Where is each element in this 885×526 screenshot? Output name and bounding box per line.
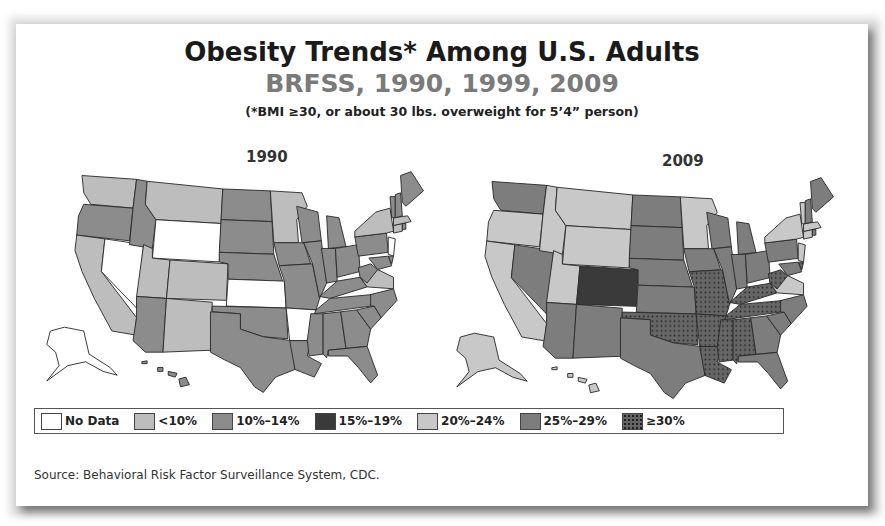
- state-wa: [492, 182, 547, 215]
- state-ne: [629, 258, 692, 287]
- state-hi: [142, 361, 190, 387]
- state-co: [166, 260, 228, 300]
- state-hi: [552, 367, 600, 393]
- us-map-2009: [448, 170, 838, 400]
- state-oh: [335, 245, 360, 278]
- state-az: [133, 296, 166, 352]
- state-nj: [798, 243, 805, 262]
- legend-label: 20%–24%: [441, 414, 504, 428]
- state-nh: [395, 193, 402, 218]
- legend-item-20-24: 20%–24%: [417, 413, 504, 430]
- swatch-gte30: [622, 413, 643, 430]
- state-ny: [355, 208, 394, 237]
- state-ak: [457, 333, 527, 387]
- legend-item-10-14: 10%–14%: [212, 413, 299, 430]
- legend-label: <10%: [158, 414, 197, 428]
- map-1990: [38, 164, 428, 394]
- state-or: [77, 204, 133, 240]
- swatch-10-14: [212, 413, 233, 430]
- us-map-1990: [38, 164, 428, 394]
- state-wy: [562, 226, 631, 268]
- state-nd: [631, 195, 682, 228]
- state-ks: [226, 279, 286, 308]
- state-ri: [812, 230, 816, 236]
- state-ms: [717, 320, 733, 362]
- state-wa: [82, 176, 137, 209]
- bmi-note: (*BMI ≥30, or about 30 lbs. overweight f…: [16, 104, 868, 119]
- state-az: [543, 302, 576, 358]
- swatch-no-data: [41, 413, 62, 430]
- state-sd: [219, 220, 274, 255]
- state-wi: [707, 212, 732, 248]
- state-ms: [307, 314, 323, 356]
- state-mi: [327, 216, 346, 249]
- swatch-lt10: [134, 413, 155, 430]
- state-or: [487, 210, 543, 246]
- state-nd: [221, 189, 272, 222]
- map-label-2009: 2009: [662, 152, 704, 170]
- swatch-20-24: [417, 413, 438, 430]
- state-me: [401, 172, 424, 207]
- slide-title: Obesity Trends* Among U.S. Adults: [16, 37, 868, 67]
- state-mi: [737, 222, 756, 255]
- state-ri: [402, 224, 406, 230]
- state-ks: [636, 285, 696, 314]
- swatch-25-29: [520, 413, 541, 430]
- legend-label: No Data: [65, 414, 119, 428]
- state-nm: [573, 304, 622, 358]
- slide: Obesity Trends* Among U.S. Adults BRFSS,…: [16, 24, 868, 506]
- legend-label: ≥30%: [646, 414, 685, 428]
- swatch-15-19: [315, 413, 336, 430]
- state-co: [576, 266, 638, 306]
- state-nj: [388, 237, 395, 256]
- legend-item-lt10: <10%: [134, 413, 197, 430]
- map-2009: [448, 170, 838, 400]
- state-fl: [738, 352, 787, 388]
- state-ny: [765, 214, 804, 243]
- state-nm: [163, 298, 212, 352]
- legend-label: 10%–14%: [236, 414, 299, 428]
- state-ne: [219, 252, 282, 281]
- state-ak: [47, 327, 117, 381]
- legend-label: 25%–29%: [544, 414, 607, 428]
- state-sd: [629, 226, 684, 261]
- legend-item-25-29: 25%–29%: [520, 413, 607, 430]
- state-nh: [805, 199, 812, 224]
- state-wi: [297, 206, 322, 242]
- state-mt: [145, 181, 222, 223]
- state-fl: [328, 346, 377, 382]
- slide-subtitle: BRFSS, 1990, 1999, 2009: [16, 69, 868, 98]
- source-citation: Source: Behavioral Risk Factor Surveilla…: [34, 468, 380, 482]
- legend-label: 15%–19%: [339, 414, 402, 428]
- state-oh: [745, 251, 770, 284]
- legend: No Data <10% 10%–14% 15%–19% 20%–24% 25%…: [34, 408, 784, 434]
- legend-item-15-19: 15%–19%: [315, 413, 402, 430]
- state-wy: [152, 220, 221, 262]
- state-me: [811, 178, 834, 213]
- legend-item-no-data: No Data: [41, 413, 119, 430]
- state-mt: [555, 187, 632, 229]
- legend-item-gte30: ≥30%: [622, 413, 685, 430]
